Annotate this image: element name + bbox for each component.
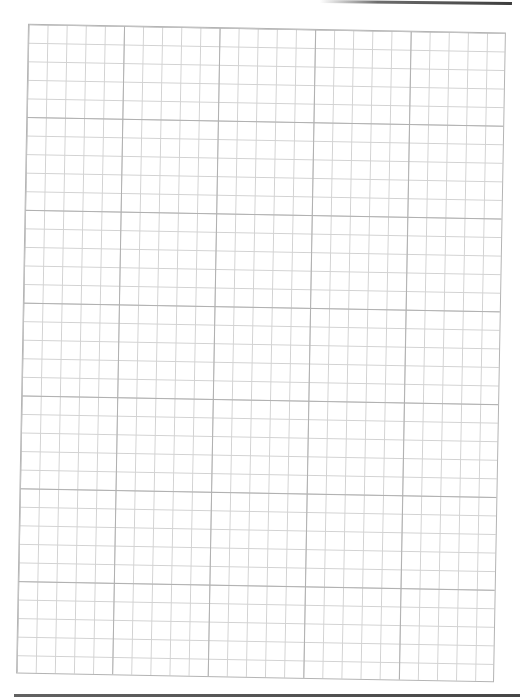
graph-paper-grid: [16, 24, 506, 683]
scan-edge-top-line: [320, 0, 512, 5]
scanned-page: [0, 0, 520, 700]
scan-edge-bottom-line: [14, 694, 520, 697]
